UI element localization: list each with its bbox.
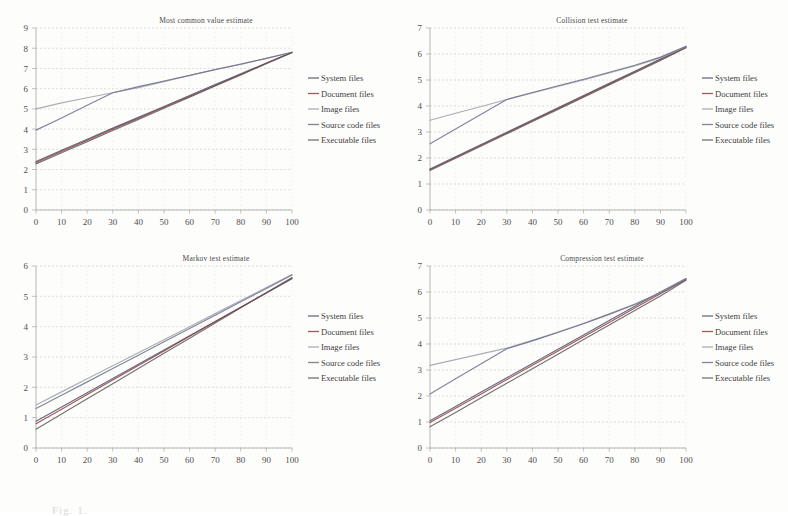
y-axis-tick-label: 1 [418, 417, 423, 427]
series-line-source-code-files [36, 52, 292, 130]
y-axis-tick-label: 4 [418, 339, 423, 349]
y-axis-tick-label: 6 [418, 287, 423, 297]
chart-svg-compression-test-estimate: 012345670102030405060708090100System fil… [396, 252, 788, 484]
y-axis-tick-label: 8 [24, 44, 29, 54]
legend-label-source-code-files: Source code files [715, 120, 775, 130]
y-axis-tick-label: 6 [24, 84, 29, 94]
x-axis-tick-label: 100 [285, 217, 299, 227]
x-axis-tick-label: 0 [428, 217, 433, 227]
chart-panel-collision-test-estimate: Collision test estimate 0123456701020304… [396, 14, 788, 260]
x-axis-tick-label: 70 [605, 455, 615, 465]
x-axis-tick-label: 0 [34, 455, 39, 465]
legend-label-image-files: Image files [715, 104, 754, 114]
x-axis-tick-label: 30 [502, 455, 512, 465]
legend-label-executable-files: Executable files [715, 135, 771, 145]
legend-label-executable-files: Executable files [321, 135, 377, 145]
y-axis-tick-label: 3 [418, 365, 423, 375]
x-axis-tick-label: 20 [477, 455, 487, 465]
y-axis-tick-label: 1 [24, 185, 29, 195]
legend-label-document-files: Document files [715, 89, 768, 99]
y-axis-tick-label: 7 [24, 64, 29, 74]
y-axis-tick-label: 4 [24, 322, 29, 332]
x-axis-tick-label: 20 [477, 217, 487, 227]
x-axis-tick-label: 90 [262, 455, 272, 465]
x-axis-tick-label: 50 [160, 455, 170, 465]
x-axis-tick-label: 10 [57, 217, 67, 227]
x-axis-tick-label: 80 [630, 217, 640, 227]
x-axis-tick-label: 50 [554, 455, 564, 465]
legend-label-system-files: System files [715, 73, 758, 83]
x-axis-tick-label: 10 [451, 455, 461, 465]
x-axis-tick-label: 60 [579, 217, 589, 227]
y-axis-tick-label: 0 [418, 205, 423, 215]
x-axis-tick-label: 60 [185, 217, 195, 227]
y-axis-tick-label: 2 [418, 153, 423, 163]
legend-label-system-files: System files [321, 311, 364, 321]
x-axis-tick-label: 30 [108, 217, 118, 227]
x-axis-tick-label: 70 [211, 217, 221, 227]
y-axis-tick-label: 2 [418, 391, 423, 401]
legend-label-document-files: Document files [321, 89, 374, 99]
legend-label-source-code-files: Source code files [321, 358, 381, 368]
y-axis-tick-label: 5 [418, 75, 423, 85]
chart-svg-collision-test-estimate: 012345670102030405060708090100System fil… [396, 14, 788, 246]
x-axis-tick-label: 90 [262, 217, 272, 227]
chart-panel-markov-test-estimate: Markov test estimate 0123456010203040506… [2, 252, 394, 498]
y-axis-tick-label: 5 [418, 313, 423, 323]
legend-label-system-files: System files [715, 311, 758, 321]
chart-title: Most common value estimate [2, 16, 402, 25]
legend-label-executable-files: Executable files [321, 373, 377, 383]
y-axis-tick-label: 0 [24, 205, 29, 215]
x-axis-tick-label: 100 [285, 455, 299, 465]
x-axis-tick-label: 90 [656, 217, 666, 227]
x-axis-tick-label: 40 [528, 455, 538, 465]
y-axis-tick-label: 4 [418, 101, 423, 111]
x-axis-tick-label: 80 [236, 455, 246, 465]
x-axis-tick-label: 20 [83, 455, 93, 465]
x-axis-tick-label: 70 [211, 455, 221, 465]
x-axis-tick-label: 20 [83, 217, 93, 227]
y-axis-tick-label: 0 [24, 443, 29, 453]
series-line-source-code-files [430, 279, 686, 394]
legend-label-document-files: Document files [715, 327, 768, 337]
chart-panel-most-common-value-estimate: Most common value estimate 0123456789010… [2, 14, 394, 260]
y-axis-tick-label: 3 [24, 352, 29, 362]
x-axis-tick-label: 40 [134, 217, 144, 227]
x-axis-tick-label: 10 [57, 455, 67, 465]
x-axis-tick-label: 30 [108, 455, 118, 465]
x-axis-tick-label: 40 [134, 455, 144, 465]
x-axis-tick-label: 0 [34, 217, 39, 227]
legend-label-source-code-files: Source code files [715, 358, 775, 368]
legend-label-system-files: System files [321, 73, 364, 83]
chart-title: Collision test estimate [396, 16, 788, 25]
figure-caption: Fig. 1. [52, 504, 87, 516]
x-axis-tick-label: 80 [236, 217, 246, 227]
y-axis-tick-label: 5 [24, 104, 29, 114]
x-axis-tick-label: 40 [528, 217, 538, 227]
y-axis-tick-label: 4 [24, 125, 29, 135]
y-axis-tick-label: 2 [24, 383, 29, 393]
y-axis-tick-label: 3 [418, 127, 423, 137]
x-axis-tick-label: 60 [185, 455, 195, 465]
x-axis-tick-label: 10 [451, 217, 461, 227]
x-axis-tick-label: 100 [679, 455, 693, 465]
x-axis-tick-label: 70 [605, 217, 615, 227]
x-axis-tick-label: 60 [579, 455, 589, 465]
legend-label-source-code-files: Source code files [321, 120, 381, 130]
legend-label-executable-files: Executable files [715, 373, 771, 383]
legend-label-document-files: Document files [321, 327, 374, 337]
chart-svg-most-common-value-estimate: 01234567890102030405060708090100System f… [2, 14, 394, 246]
y-axis-tick-label: 6 [418, 49, 423, 59]
y-axis-tick-label: 1 [24, 413, 29, 423]
chart-title: Markov test estimate [2, 254, 412, 263]
y-axis-tick-label: 0 [418, 443, 423, 453]
x-axis-tick-label: 90 [656, 455, 666, 465]
y-axis-tick-label: 2 [24, 165, 29, 175]
x-axis-tick-label: 80 [630, 455, 640, 465]
y-axis-tick-label: 3 [24, 145, 29, 155]
x-axis-tick-label: 50 [554, 217, 564, 227]
x-axis-tick-label: 0 [428, 455, 433, 465]
y-axis-tick-label: 1 [418, 179, 423, 189]
legend-label-image-files: Image files [321, 342, 360, 352]
